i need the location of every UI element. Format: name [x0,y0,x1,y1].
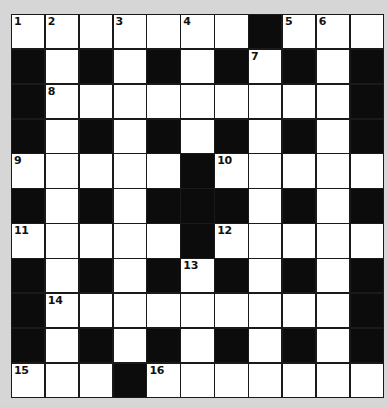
grid-open-cell[interactable]: 13 [181,259,213,292]
grid-open-cell[interactable] [46,50,78,83]
grid-open-cell[interactable] [114,259,146,292]
grid-open-cell[interactable] [317,85,349,118]
grid-open-cell[interactable] [215,15,247,48]
grid-open-cell[interactable] [317,50,349,83]
grid-open-cell[interactable] [317,189,349,222]
grid-open-cell[interactable]: 5 [283,15,315,48]
clue-number: 8 [48,85,55,98]
grid-open-cell[interactable] [80,224,112,257]
grid-open-cell[interactable] [80,85,112,118]
grid-open-cell[interactable] [249,329,281,362]
grid-open-cell[interactable] [181,85,213,118]
grid-open-cell[interactable] [147,154,179,187]
clue-number: 3 [116,15,123,28]
grid-open-cell[interactable] [114,294,146,327]
grid-block-cell [80,259,112,292]
grid-open-cell[interactable] [283,364,315,397]
grid-open-cell[interactable] [114,189,146,222]
grid-block-cell [351,120,383,153]
grid-open-cell[interactable] [80,15,112,48]
grid-open-cell[interactable] [215,364,247,397]
grid-block-cell [80,120,112,153]
grid-open-cell[interactable] [351,224,383,257]
grid-block-cell [147,189,179,222]
grid-open-cell[interactable]: 14 [46,294,78,327]
grid-open-cell[interactable] [283,154,315,187]
grid-open-cell[interactable] [249,224,281,257]
grid-open-cell[interactable] [215,85,247,118]
grid-open-cell[interactable] [249,154,281,187]
grid-open-cell[interactable] [181,120,213,153]
grid-open-cell[interactable] [283,224,315,257]
grid-open-cell[interactable] [249,120,281,153]
grid-open-cell[interactable] [351,15,383,48]
grid-open-cell[interactable]: 8 [46,85,78,118]
grid-open-cell[interactable]: 7 [249,50,281,83]
grid-open-cell[interactable] [317,294,349,327]
clue-number: 12 [217,224,232,237]
clue-number: 6 [319,15,326,28]
grid-open-cell[interactable]: 15 [12,364,44,397]
grid-block-cell [351,85,383,118]
grid-block-cell [351,50,383,83]
grid-open-cell[interactable] [114,50,146,83]
grid-open-cell[interactable] [46,224,78,257]
grid-block-cell [351,189,383,222]
grid-open-cell[interactable] [215,294,247,327]
grid-open-cell[interactable] [114,224,146,257]
grid-open-cell[interactable]: 4 [181,15,213,48]
grid-open-cell[interactable] [249,259,281,292]
grid-open-cell[interactable] [317,120,349,153]
grid-open-cell[interactable] [46,189,78,222]
grid-open-cell[interactable] [46,154,78,187]
grid-open-cell[interactable]: 9 [12,154,44,187]
grid-open-cell[interactable] [249,189,281,222]
grid-open-cell[interactable] [114,329,146,362]
clue-number: 16 [149,364,164,377]
grid-open-cell[interactable]: 1 [12,15,44,48]
grid-open-cell[interactable] [147,294,179,327]
grid-open-cell[interactable] [147,224,179,257]
grid-block-cell [215,189,247,222]
grid-open-cell[interactable] [80,154,112,187]
grid-open-cell[interactable] [181,364,213,397]
grid-open-cell[interactable] [147,15,179,48]
grid-open-cell[interactable] [46,259,78,292]
grid-open-cell[interactable] [317,259,349,292]
grid-open-cell[interactable] [249,364,281,397]
grid-open-cell[interactable]: 6 [317,15,349,48]
grid-open-cell[interactable] [249,85,281,118]
grid-open-cell[interactable] [317,224,349,257]
grid-open-cell[interactable] [46,329,78,362]
grid-open-cell[interactable] [181,294,213,327]
grid-open-cell[interactable] [283,294,315,327]
grid-block-cell [283,189,315,222]
grid-open-cell[interactable] [114,154,146,187]
grid-open-cell[interactable] [46,120,78,153]
clue-number: 11 [14,224,29,237]
grid-open-cell[interactable] [147,85,179,118]
grid-open-cell[interactable] [80,364,112,397]
grid-open-cell[interactable]: 2 [46,15,78,48]
grid-open-cell[interactable] [114,120,146,153]
grid-open-cell[interactable]: 12 [215,224,247,257]
grid-open-cell[interactable]: 11 [12,224,44,257]
grid-open-cell[interactable] [114,85,146,118]
grid-open-cell[interactable]: 16 [147,364,179,397]
grid-block-cell [283,259,315,292]
grid-open-cell[interactable] [351,154,383,187]
grid-open-cell[interactable]: 10 [215,154,247,187]
grid-open-cell[interactable] [283,85,315,118]
grid-open-cell[interactable] [351,364,383,397]
clue-number: 14 [48,294,63,307]
grid-open-cell[interactable] [317,329,349,362]
grid-open-cell[interactable] [181,329,213,362]
grid-open-cell[interactable] [46,364,78,397]
grid-open-cell[interactable] [181,50,213,83]
grid-open-cell[interactable] [317,154,349,187]
grid-open-cell[interactable] [249,294,281,327]
grid-open-cell[interactable] [317,364,349,397]
grid-block-cell [12,189,44,222]
grid-open-cell[interactable]: 3 [114,15,146,48]
grid-open-cell[interactable] [80,294,112,327]
